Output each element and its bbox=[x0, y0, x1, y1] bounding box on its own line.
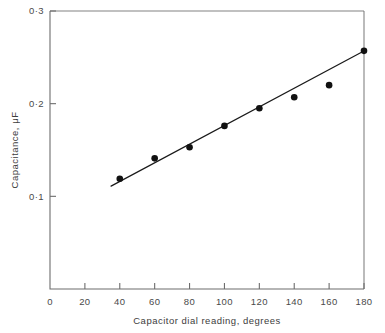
x-tick-label: 80 bbox=[184, 296, 195, 307]
axis-frame bbox=[50, 11, 364, 289]
x-tick-label: 160 bbox=[321, 296, 338, 307]
chart-plot-area: 0·10·20·3 020406080100120140160180 Capac… bbox=[0, 0, 385, 333]
best-fit-line bbox=[111, 50, 366, 186]
x-axis-title: Capacitor dial reading, degrees bbox=[133, 315, 281, 326]
fit-line-segment bbox=[111, 50, 366, 186]
data-point-marker bbox=[151, 155, 158, 162]
capacitance-chart-figure: 0·10·20·3 020406080100120140160180 Capac… bbox=[0, 0, 385, 333]
data-point-marker bbox=[221, 123, 228, 130]
x-tick-label: 0 bbox=[47, 296, 53, 307]
x-tick-label: 120 bbox=[251, 296, 268, 307]
data-point-marker bbox=[186, 144, 193, 151]
x-tick-label: 20 bbox=[79, 296, 90, 307]
y-tick-label: 0·1 bbox=[29, 191, 44, 202]
x-tick-label: 180 bbox=[355, 296, 372, 307]
x-axis-tick-labels: 020406080100120140160180 bbox=[47, 296, 372, 307]
y-axis-title: Capacitance, μF bbox=[9, 112, 20, 189]
x-tick-label: 140 bbox=[286, 296, 303, 307]
y-tick-label: 0·3 bbox=[29, 5, 44, 16]
data-point-marker bbox=[291, 94, 298, 101]
x-tick-label: 60 bbox=[149, 296, 160, 307]
x-axis-ticks bbox=[85, 283, 364, 289]
y-axis-tick-labels: 0·10·20·3 bbox=[29, 5, 44, 201]
y-axis-ticks bbox=[50, 11, 56, 196]
data-point-marker bbox=[256, 105, 263, 112]
x-tick-label: 100 bbox=[216, 296, 233, 307]
data-points bbox=[116, 48, 367, 182]
data-point-marker bbox=[361, 48, 368, 55]
data-point-marker bbox=[326, 82, 333, 89]
y-tick-label: 0·2 bbox=[29, 98, 44, 109]
data-point-marker bbox=[116, 175, 123, 182]
x-tick-label: 40 bbox=[114, 296, 125, 307]
